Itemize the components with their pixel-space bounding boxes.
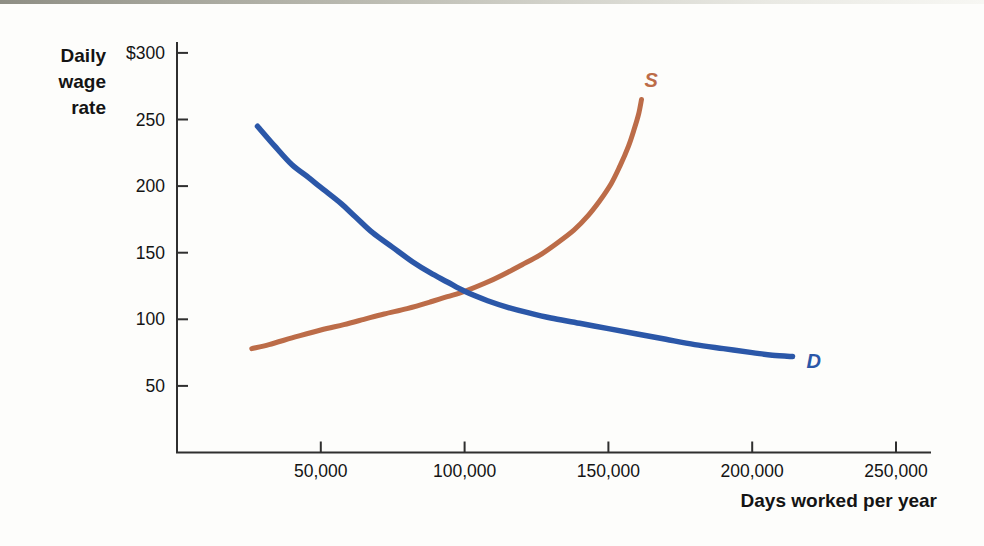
chart-canvas: $3002502001501005050,000100,000150,00020… (0, 0, 984, 546)
y-axis-title-line: Daily (38, 43, 106, 69)
y-tick-label: 200 (136, 176, 165, 196)
x-tick-label: 100,000 (433, 461, 497, 481)
y-tick-label: 50 (146, 376, 166, 396)
y-tick-label: 250 (136, 110, 165, 130)
curve-label-S: S (644, 69, 658, 91)
x-axis-title: Days worked per year (741, 490, 937, 512)
textbook-figure-page: $3002502001501005050,000100,000150,00020… (0, 0, 984, 546)
labor-demand-curve (258, 126, 793, 356)
y-tick-label: 100 (136, 309, 165, 329)
y-axis-title-line: wage (38, 69, 106, 95)
x-tick-label: 150,000 (577, 461, 641, 481)
labor-supply-curve (252, 100, 642, 349)
labor-market-supply-demand-chart: $3002502001501005050,000100,000150,00020… (0, 0, 984, 546)
curve-label-D: D (806, 350, 820, 372)
y-axis-title-line: rate (38, 95, 106, 121)
x-tick-label: 50,000 (294, 461, 348, 481)
y-axis-title: Daily wage rate (38, 43, 106, 121)
y-tick-label: 150 (136, 243, 165, 263)
x-tick-label: 200,000 (721, 461, 785, 481)
x-tick-label: 250,000 (864, 461, 928, 481)
y-tick-label: $300 (126, 43, 165, 63)
